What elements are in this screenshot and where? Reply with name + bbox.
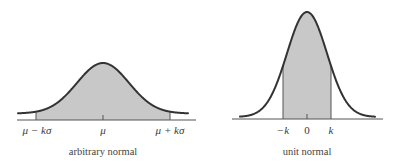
- tick-label-mu: μ: [100, 125, 106, 136]
- tick-label-k: k: [329, 125, 334, 136]
- tick-label-minus-k: −k: [277, 125, 289, 136]
- tick-label-mu-plus-k-sigma: μ + kσ: [156, 125, 185, 136]
- shaded-region-unit: [283, 12, 331, 119]
- normal-curves-plot: [0, 0, 394, 168]
- shaded-region-arbitrary: [36, 63, 170, 120]
- tick-label-mu-minus-k-sigma: μ − kσ: [23, 125, 52, 136]
- normal-distribution-figure: μ − kσ μ μ + kσ arbitrary normal −k 0 k …: [0, 0, 394, 168]
- caption-arbitrary-normal: arbitrary normal: [69, 147, 138, 158]
- tick-label-zero: 0: [304, 125, 310, 136]
- caption-unit-normal: unit normal: [283, 147, 332, 158]
